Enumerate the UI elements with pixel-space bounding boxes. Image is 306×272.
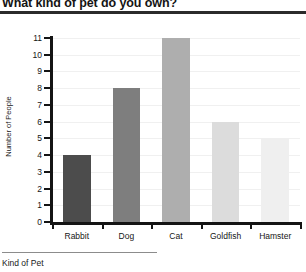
y-axis-tick-label-text: 4	[22, 151, 42, 159]
x-axis-label-cat: Cat	[151, 231, 201, 241]
y-axis-tick-label-text: 1	[22, 201, 42, 209]
footer-divider	[2, 252, 157, 253]
y-axis-tick-label-text: 8	[22, 84, 42, 92]
y-axis-tick	[44, 137, 50, 139]
y-axis-line	[50, 36, 53, 224]
y-axis-tick-label: 8	[20, 84, 42, 92]
plot-area	[52, 38, 300, 222]
x-axis-tick	[52, 222, 54, 229]
y-axis-tick-label: 4	[20, 151, 42, 159]
y-axis-tick-label-text: 5	[22, 134, 42, 142]
x-axis-tick	[151, 222, 153, 229]
x-axis-title: Kind of Pet	[2, 258, 44, 268]
y-axis-tick-label: 7	[20, 101, 42, 109]
bar-chart: Number of People 01234567891011RabbitDog…	[0, 14, 306, 246]
y-axis-tick	[44, 204, 50, 206]
page-title: What kind of pet do you own?	[2, 0, 177, 10]
y-axis-tick-label-text: 3	[22, 168, 42, 176]
y-axis-tick	[44, 104, 50, 106]
x-axis-tick	[102, 222, 104, 229]
y-axis-tick-label-text: 7	[22, 101, 42, 109]
y-axis-tick-label: 0	[20, 218, 42, 226]
y-axis-tick-label: 3	[20, 168, 42, 176]
y-axis-tick	[44, 121, 50, 123]
y-axis-tick-label-text: 9	[22, 67, 42, 75]
y-axis-tick-label-text: 6	[22, 118, 42, 126]
bar-rabbit[interactable]	[63, 155, 91, 222]
x-axis-tick	[201, 222, 203, 229]
y-axis-tick	[44, 188, 50, 190]
bar-hamster[interactable]	[261, 138, 289, 222]
bar-dog[interactable]	[113, 88, 141, 222]
bar-goldfish[interactable]	[212, 122, 240, 222]
y-axis-tick	[44, 171, 50, 173]
y-axis-tick-label-text: 11	[22, 34, 42, 42]
y-axis-tick	[44, 54, 50, 56]
x-axis-label-hamster: Hamster	[250, 231, 300, 241]
x-axis-tick	[250, 222, 252, 229]
y-axis-tick-label: 10	[20, 51, 42, 59]
y-axis-tick-label-text: 0	[22, 218, 42, 226]
y-axis-tick-label: 2	[20, 185, 42, 193]
y-axis-tick	[44, 87, 50, 89]
x-axis-line	[50, 222, 300, 225]
x-axis-label-rabbit: Rabbit	[52, 231, 102, 241]
y-axis-tick	[44, 154, 50, 156]
y-axis-tick-label-text: 2	[22, 185, 42, 193]
x-axis-label-dog: Dog	[102, 231, 152, 241]
x-axis-label-goldfish: Goldfish	[201, 231, 251, 241]
y-axis-tick-label: 1	[20, 201, 42, 209]
bar-cat[interactable]	[162, 38, 190, 222]
y-axis-tick	[44, 37, 50, 39]
y-axis-tick	[44, 221, 50, 223]
y-axis-tick	[44, 70, 50, 72]
y-axis-tick-label: 5	[20, 134, 42, 142]
y-axis-tick-label: 6	[20, 118, 42, 126]
y-axis-tick-label-text: 10	[22, 51, 42, 59]
y-axis-tick-label: 9	[20, 67, 42, 75]
y-axis-title: Number of People	[4, 87, 13, 167]
y-axis-tick-label: 11	[20, 34, 42, 42]
chart-title-area: What kind of pet do you own?	[0, 0, 306, 11]
x-axis-tick	[300, 222, 302, 229]
